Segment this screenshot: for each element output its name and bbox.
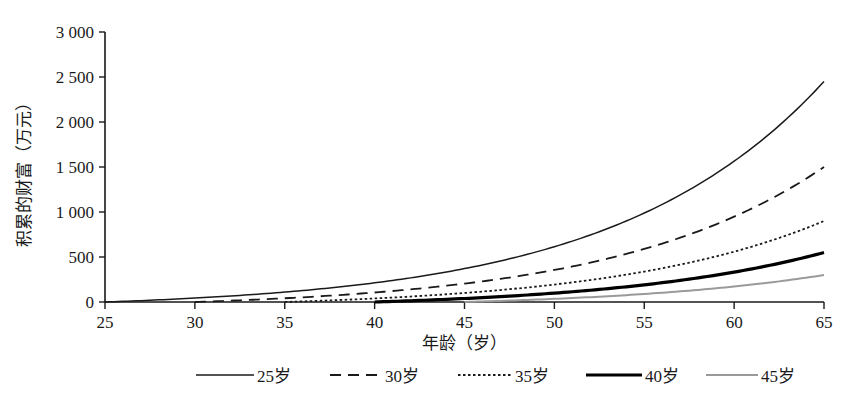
y-axis-title: 积累的财富（万元） — [15, 94, 34, 247]
series-line-35岁 — [285, 221, 824, 302]
x-tick-label: 30 — [186, 313, 203, 332]
series-line-45岁 — [465, 275, 825, 302]
series-line-30岁 — [195, 167, 824, 302]
y-tick-label: 1 500 — [56, 158, 94, 177]
x-tick-label: 60 — [726, 313, 743, 332]
axis-lines — [105, 32, 824, 302]
chart-figure: 05001 0001 5002 0002 5003 000 2530354045… — [0, 0, 848, 410]
data-series-group — [105, 82, 824, 303]
y-tick-label: 500 — [69, 248, 95, 267]
y-tick-label: 0 — [86, 293, 95, 312]
y-tick-label: 2 000 — [56, 113, 94, 132]
x-tick-label: 50 — [546, 313, 563, 332]
y-tick-marks — [99, 32, 105, 302]
legend-label-35岁: 35岁 — [515, 367, 549, 386]
x-tick-label: 25 — [97, 313, 114, 332]
x-tick-label: 35 — [276, 313, 293, 332]
x-tick-label: 40 — [366, 313, 383, 332]
y-axis-tick-labels: 05001 0001 5002 0002 5003 000 — [56, 23, 94, 312]
x-tick-label: 45 — [456, 313, 473, 332]
x-tick-label: 55 — [636, 313, 653, 332]
chart-legend: 25岁30岁35岁40岁45岁 — [196, 367, 795, 386]
chart-axes — [99, 32, 824, 309]
x-tick-marks — [105, 302, 824, 309]
y-tick-label: 3 000 — [56, 23, 94, 42]
y-tick-label: 1 000 — [56, 203, 94, 222]
x-tick-label: 65 — [816, 313, 833, 332]
series-line-25岁 — [105, 82, 824, 303]
y-tick-label: 2 500 — [56, 68, 94, 87]
legend-label-40岁: 40岁 — [645, 367, 679, 386]
legend-label-25岁: 25岁 — [257, 367, 291, 386]
x-axis-tick-labels: 253035404550556065 — [97, 313, 833, 332]
wealth-accumulation-line-chart: 05001 0001 5002 0002 5003 000 2530354045… — [0, 0, 848, 410]
legend-label-30岁: 30岁 — [385, 367, 419, 386]
x-axis-title: 年龄（岁） — [422, 334, 507, 353]
legend-label-45岁: 45岁 — [761, 367, 795, 386]
